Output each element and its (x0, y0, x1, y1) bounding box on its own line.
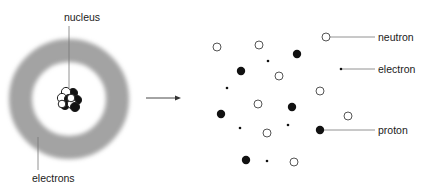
electron-particle (267, 60, 270, 63)
neutron-label: neutron (378, 31, 414, 43)
proton-particle (217, 110, 225, 118)
neutron-icon (322, 33, 330, 41)
transformation-arrow (146, 96, 181, 101)
electron-label: electron (378, 63, 416, 75)
legend: neutron electron proton (316, 31, 416, 136)
electron-particle (287, 124, 290, 127)
neutron-particle (275, 72, 283, 80)
free-particles (213, 41, 352, 166)
neutron-particle (254, 100, 262, 108)
nucleus-cluster (57, 87, 81, 111)
nucleus-label: nucleus (64, 11, 100, 23)
proton-label: proton (378, 124, 408, 136)
neutron-particle (290, 158, 298, 166)
atom-ionization-diagram: nucleus electrons neutron electron proto… (0, 0, 431, 191)
neutron-particle (344, 112, 352, 120)
legend-proton: proton (316, 124, 408, 136)
proton-particle (288, 103, 296, 111)
atom: nucleus electrons (21, 11, 118, 184)
neutron-particle (213, 43, 221, 51)
electron-particle (226, 87, 229, 90)
proton-particle (242, 156, 250, 164)
proton-particle (293, 50, 301, 58)
electron-particle (266, 160, 269, 163)
legend-neutron: neutron (322, 31, 414, 43)
electron-particle (239, 127, 242, 130)
proton-icon (316, 126, 324, 134)
electrons-label: electrons (32, 172, 75, 184)
electron-icon (340, 68, 343, 71)
neutron-particle (263, 129, 271, 137)
neutron-particle (255, 41, 263, 49)
legend-electron: electron (340, 63, 416, 75)
proton-particle (237, 67, 245, 75)
neutron-particle (316, 87, 324, 95)
